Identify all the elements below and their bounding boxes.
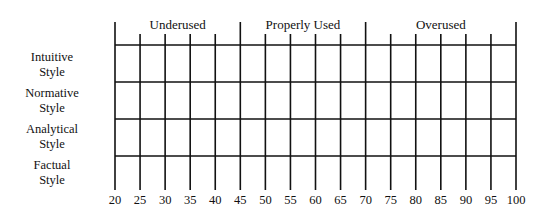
x-tick-label: 95 — [485, 193, 498, 207]
x-tick-label: 80 — [410, 193, 423, 207]
row-label-line1: Factual — [12, 158, 92, 173]
x-tick-label: 85 — [435, 193, 448, 207]
zone-label: Underused — [149, 17, 205, 32]
zone-label: Properly Used — [266, 17, 341, 32]
row-label-line2: Style — [12, 173, 92, 188]
row-label-line1: Intuitive — [12, 50, 92, 65]
x-tick-label: 50 — [259, 193, 272, 207]
x-tick-label: 75 — [384, 193, 397, 207]
x-tick-label: 65 — [334, 193, 347, 207]
x-tick-label: 30 — [159, 193, 172, 207]
zone-label: Overused — [416, 17, 466, 32]
x-tick-label: 20 — [109, 193, 122, 207]
row-label: IntuitiveStyle — [12, 50, 92, 80]
x-tick-label: 100 — [507, 193, 526, 207]
row-label-line1: Normative — [12, 86, 92, 101]
x-tick-label: 35 — [184, 193, 197, 207]
row-label-line2: Style — [12, 137, 92, 152]
row-label: NormativeStyle — [12, 86, 92, 116]
x-tick-label: 70 — [359, 193, 372, 207]
x-tick-label: 55 — [284, 193, 297, 207]
row-label-line1: Analytical — [12, 122, 92, 137]
row-label: FactualStyle — [12, 158, 92, 188]
x-tick-label: 60 — [309, 193, 322, 207]
x-tick-label: 25 — [134, 193, 147, 207]
row-label: AnalyticalStyle — [12, 122, 92, 152]
row-label-line2: Style — [12, 101, 92, 116]
x-tick-label: 45 — [234, 193, 247, 207]
row-label-line2: Style — [12, 65, 92, 80]
x-tick-label: 90 — [460, 193, 473, 207]
x-tick-label: 40 — [209, 193, 222, 207]
